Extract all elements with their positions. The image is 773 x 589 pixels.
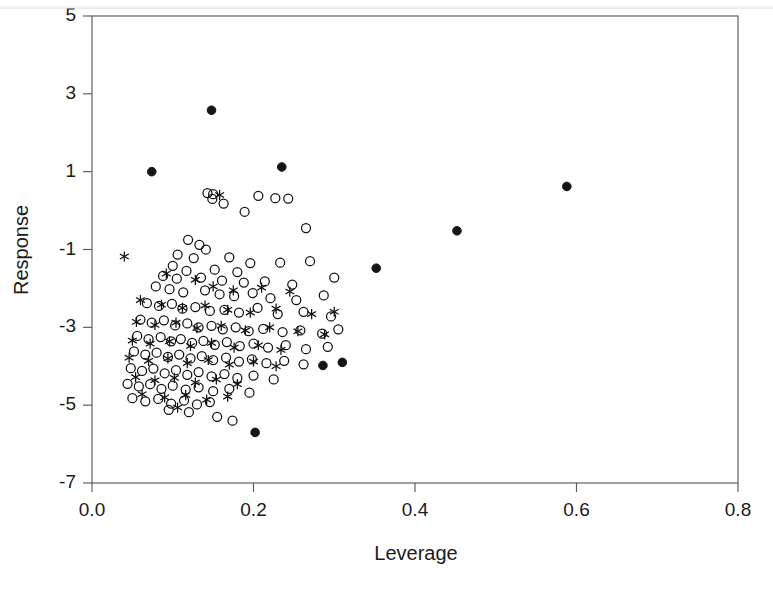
data-point-open — [301, 345, 310, 354]
data-point-filled — [453, 227, 462, 236]
data-point-star — [254, 340, 263, 350]
data-point-open — [254, 191, 263, 200]
data-point-open — [168, 261, 177, 270]
data-point-open — [234, 357, 243, 366]
data-points-group — [120, 106, 571, 437]
data-point-open — [149, 364, 158, 373]
x-axis-title: Leverage — [374, 542, 457, 564]
data-point-open — [219, 199, 228, 208]
data-point-open — [191, 303, 200, 312]
data-point-open — [205, 306, 214, 315]
data-point-open — [299, 307, 308, 316]
data-point-open — [207, 321, 216, 330]
data-point-open — [240, 207, 249, 216]
data-point-star — [191, 275, 200, 285]
data-point-open — [288, 280, 297, 289]
x-axis-tick-label: 0.0 — [79, 499, 105, 520]
data-point-open — [188, 338, 197, 347]
data-point-open — [249, 371, 258, 380]
y-axis-tick-label: -5 — [59, 393, 76, 414]
data-point-open — [165, 285, 174, 294]
data-point-open — [234, 308, 243, 317]
y-axis-title: Response — [10, 205, 32, 295]
data-point-star — [120, 251, 129, 261]
data-point-star — [201, 300, 210, 310]
data-point-open — [239, 278, 248, 287]
data-point-open — [183, 370, 192, 379]
data-point-star — [202, 395, 211, 405]
scatter-plot-figure: 531-1-3-5-70.00.20.40.60.8 Leverage Resp… — [0, 0, 773, 589]
data-point-open — [152, 348, 161, 357]
plot-canvas: 531-1-3-5-70.00.20.40.60.8 Leverage Resp… — [0, 0, 773, 589]
data-point-open — [123, 379, 132, 388]
plot-frame — [92, 16, 738, 483]
data-point-star — [151, 320, 160, 330]
data-point-open — [156, 333, 165, 342]
data-point-star — [163, 353, 172, 363]
x-axis-tick-label: 0.2 — [240, 499, 266, 520]
data-point-open — [183, 319, 192, 328]
data-point-filled — [563, 182, 572, 191]
data-point-open — [292, 296, 301, 305]
data-point-open — [225, 384, 234, 393]
data-point-star — [225, 360, 234, 370]
data-point-open — [184, 235, 193, 244]
y-axis-tick-label: 1 — [65, 160, 76, 181]
data-point-open — [334, 325, 343, 334]
data-point-filled — [277, 163, 286, 172]
data-point-open — [278, 328, 287, 337]
data-point-open — [213, 412, 222, 421]
data-point-star — [212, 374, 221, 384]
data-point-open — [128, 394, 137, 403]
data-point-open — [209, 356, 218, 365]
data-point-open — [167, 299, 176, 308]
data-point-open — [269, 375, 278, 384]
data-point-open — [129, 347, 138, 356]
x-axis-tick-label: 0.4 — [402, 499, 429, 520]
data-point-open — [194, 368, 203, 377]
data-point-open — [248, 289, 257, 298]
data-point-open — [192, 400, 201, 409]
data-point-open — [264, 343, 273, 352]
data-point-open — [220, 370, 229, 379]
data-point-open — [225, 253, 234, 262]
y-axis-tick-label: -1 — [59, 238, 76, 259]
data-point-open — [126, 364, 135, 373]
data-point-star — [125, 353, 134, 363]
data-point-open — [168, 381, 177, 390]
data-point-open — [228, 416, 237, 425]
data-point-open — [197, 352, 206, 361]
y-axis-tick-label: -7 — [59, 471, 76, 492]
data-point-open — [199, 336, 208, 345]
data-point-open — [201, 245, 210, 254]
data-point-open — [189, 254, 198, 263]
data-point-open — [171, 366, 180, 375]
data-point-star — [307, 309, 316, 319]
data-point-open — [142, 299, 151, 308]
data-point-open — [306, 257, 315, 266]
data-point-open — [209, 387, 218, 396]
data-point-open — [201, 286, 210, 295]
data-point-star — [272, 361, 281, 371]
data-point-open — [262, 359, 271, 368]
data-point-filled — [207, 106, 216, 115]
data-point-open — [179, 288, 188, 297]
data-point-open — [323, 342, 332, 351]
axes-group: 531-1-3-5-70.00.20.40.60.8 — [59, 4, 751, 520]
data-point-open — [173, 250, 182, 259]
data-point-open — [273, 310, 282, 319]
data-point-open — [299, 360, 308, 369]
data-point-open — [159, 316, 168, 325]
data-point-open — [284, 194, 293, 203]
data-point-open — [175, 350, 184, 359]
data-point-open — [280, 356, 289, 365]
y-axis-tick-label: 5 — [65, 4, 76, 25]
data-point-open — [266, 294, 275, 303]
x-axis-tick-label: 0.6 — [563, 499, 589, 520]
data-point-open — [210, 265, 219, 274]
y-axis-tick-label: -3 — [59, 315, 76, 336]
data-point-open — [218, 276, 227, 285]
y-axis-tick-label: 3 — [65, 82, 76, 103]
data-point-open — [182, 266, 191, 275]
data-point-filled — [251, 428, 260, 437]
